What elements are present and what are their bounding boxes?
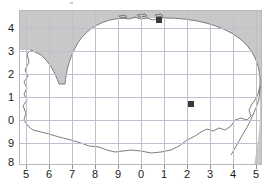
y-tick-label: 3 bbox=[0, 45, 14, 57]
grid-line-v bbox=[118, 10, 119, 165]
y-tick-label: 9 bbox=[0, 137, 14, 149]
x-tick-label: 3 bbox=[202, 168, 218, 180]
artifact-speck bbox=[70, 2, 73, 4]
site-marker-north[interactable] bbox=[156, 17, 162, 23]
grid-line-h bbox=[19, 74, 262, 75]
site-marker-inland[interactable] bbox=[188, 101, 194, 107]
y-tick-label: 0 bbox=[0, 114, 14, 126]
y-tick-label: 1 bbox=[0, 91, 14, 103]
grid-line-v bbox=[164, 10, 165, 165]
grid-line-h bbox=[19, 120, 262, 121]
grid-line-v bbox=[187, 10, 188, 165]
grid-line-v bbox=[49, 10, 50, 165]
grid-line-v bbox=[26, 10, 27, 165]
grid-line-v bbox=[256, 10, 257, 165]
grid-line-v bbox=[210, 10, 211, 165]
x-tick-label: 5 bbox=[248, 168, 264, 180]
grid-line-v bbox=[95, 10, 96, 165]
grid-line-h bbox=[19, 97, 262, 98]
x-tick-label: 1 bbox=[156, 168, 172, 180]
grid-line-h bbox=[19, 143, 262, 144]
grid-line-v bbox=[141, 10, 142, 165]
y-tick-label: 2 bbox=[0, 68, 14, 80]
x-tick-label: 8 bbox=[87, 168, 103, 180]
map-figure: 5 6 7 8 9 0 1 2 3 4 5 4 3 2 1 0 9 8 bbox=[0, 0, 267, 191]
x-tick-label: 4 bbox=[225, 168, 241, 180]
x-tick-label: 5 bbox=[18, 168, 34, 180]
map-plot-area[interactable] bbox=[19, 10, 262, 165]
x-tick-label: 6 bbox=[41, 168, 57, 180]
grid-line-h bbox=[19, 28, 262, 29]
grid-line-v bbox=[233, 10, 234, 165]
grid-line-v bbox=[72, 10, 73, 165]
y-tick-label: 8 bbox=[0, 156, 14, 168]
x-tick-label: 9 bbox=[110, 168, 126, 180]
grid-line-h bbox=[19, 51, 262, 52]
x-tick-label: 2 bbox=[179, 168, 195, 180]
x-tick-label: 7 bbox=[64, 168, 80, 180]
x-tick-label: 0 bbox=[133, 168, 149, 180]
y-tick-label: 4 bbox=[0, 22, 14, 34]
